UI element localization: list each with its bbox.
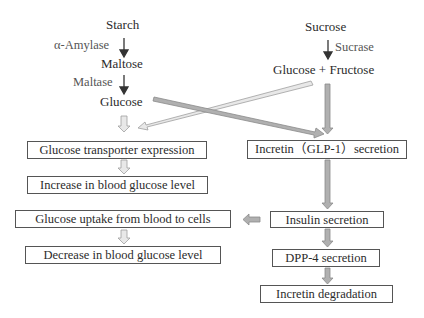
glucose-transporter-box: Glucose transporter expression — [27, 141, 207, 159]
glucose-fructose-label: Glucose + Fructose — [273, 62, 374, 77]
increase-blood-glucose-box: Increase in blood glucose level — [27, 176, 208, 194]
incretin-degradation-box: Incretin degradation — [260, 285, 393, 303]
incretin-secretion-box: Incretin（GLP-1）secretion — [247, 140, 407, 159]
sucrose-label: Sucrose — [305, 19, 346, 34]
alpha-amylase-label: α-Amylase — [54, 38, 109, 53]
glucose-uptake-box: Glucose uptake from blood to cells — [15, 210, 231, 228]
sucrase-label: Sucrase — [335, 40, 374, 55]
insulin-secretion-box: Insulin secretion — [270, 211, 384, 228]
starch-label: Starch — [106, 17, 139, 32]
maltose-label: Maltose — [101, 56, 143, 71]
maltase-label: Maltase — [73, 75, 113, 90]
decrease-blood-glucose-box: Decrease in blood glucose level — [25, 246, 221, 264]
glucose-label: Glucose — [100, 94, 143, 109]
dpp4-secretion-box: DPP-4 secretion — [272, 249, 380, 267]
